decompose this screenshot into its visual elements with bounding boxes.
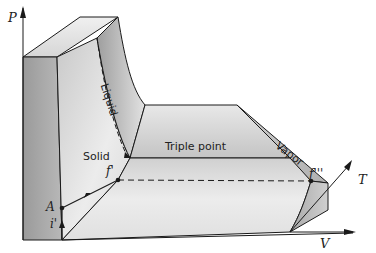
v-axis-label: V [320, 236, 329, 251]
p-axis-label: P [8, 10, 17, 25]
t-axis-label: T [358, 172, 367, 187]
point-a-label: A [46, 200, 55, 214]
point-f-triple-prime-label: f''' [309, 167, 323, 181]
point-f-prime-label: f' [106, 164, 114, 178]
pvt-surface-diagram [0, 0, 376, 253]
point-a-marker [60, 206, 65, 211]
left-face [23, 57, 62, 240]
p-axis-arrow-icon [20, 6, 26, 18]
point-i-prime-label: i' [50, 217, 57, 231]
point-f-prime-marker [116, 178, 121, 183]
triple-point-label: Triple point [165, 140, 226, 153]
v-axis-arrow-icon [344, 229, 356, 235]
solid-label: Solid [83, 150, 110, 163]
